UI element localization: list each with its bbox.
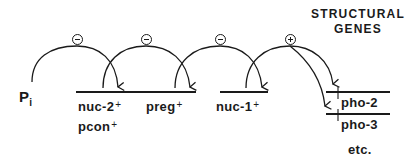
arc-nuc2-to-preg [103,46,190,88]
nuc1-label: nuc-1+ [216,100,259,113]
pho2-label: pho-2 [341,96,378,109]
pho3-label: pho-3 [341,118,378,131]
arc-pi-to-nuc2 [32,46,118,87]
preg-label: preg+ [146,100,183,113]
arc-nuc1-to-pho3 [290,46,325,106]
positive-regulation-icon [285,34,296,45]
structural-genes-header: STRUCTURAL GENES [308,8,408,35]
negative-regulation-icon [72,34,83,45]
nuc2-label: nuc-2+ [78,100,121,113]
negative-regulation-icon [215,34,226,45]
header-line1: STRUCTURAL [308,8,408,20]
negative-regulation-icon [141,34,152,45]
pcon-label: pcon+ [78,120,117,133]
arc-preg-to-nuc1 [175,46,262,88]
etc-label: etc. [348,143,372,156]
arc-nuc1-to-structural [246,46,333,88]
pi-label: Pi [19,89,32,108]
header-line2: GENES [308,23,408,35]
